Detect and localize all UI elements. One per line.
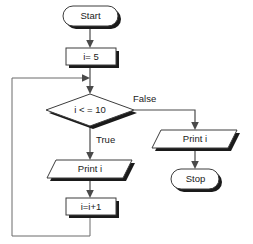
edge-label-true: True xyxy=(96,134,115,145)
node-init[interactable]: i= 5 xyxy=(66,48,119,68)
node-print-true[interactable]: Print i xyxy=(47,160,135,181)
node-decision-label: i < = 10 xyxy=(74,104,106,115)
node-start[interactable]: Start xyxy=(63,6,121,29)
edge-init-to-decision xyxy=(86,65,94,94)
edge-printfalse-to-stop xyxy=(191,150,199,169)
node-stop[interactable]: Stop xyxy=(171,169,222,192)
flowchart-diagram: Start i= 5 i < = 10 Print i i=i+1 Print … xyxy=(0,0,253,244)
node-init-label: i= 5 xyxy=(83,51,99,62)
node-print-false-label: Print i xyxy=(183,133,207,144)
node-start-label: Start xyxy=(80,10,100,21)
edge-decision-to-print-false xyxy=(134,110,199,130)
edge-print-to-increment xyxy=(86,179,94,198)
node-stop-label: Stop xyxy=(186,173,206,184)
node-increment[interactable]: i=i+1 xyxy=(66,198,119,218)
node-print-false[interactable]: Print i xyxy=(152,130,240,151)
node-print-true-label: Print i xyxy=(78,163,102,174)
node-decision[interactable]: i < = 10 xyxy=(46,94,137,129)
edge-label-false: False xyxy=(133,93,156,104)
edge-start-to-init xyxy=(86,27,94,48)
edge-decision-to-print-true xyxy=(86,127,94,160)
node-increment-label: i=i+1 xyxy=(81,201,102,212)
